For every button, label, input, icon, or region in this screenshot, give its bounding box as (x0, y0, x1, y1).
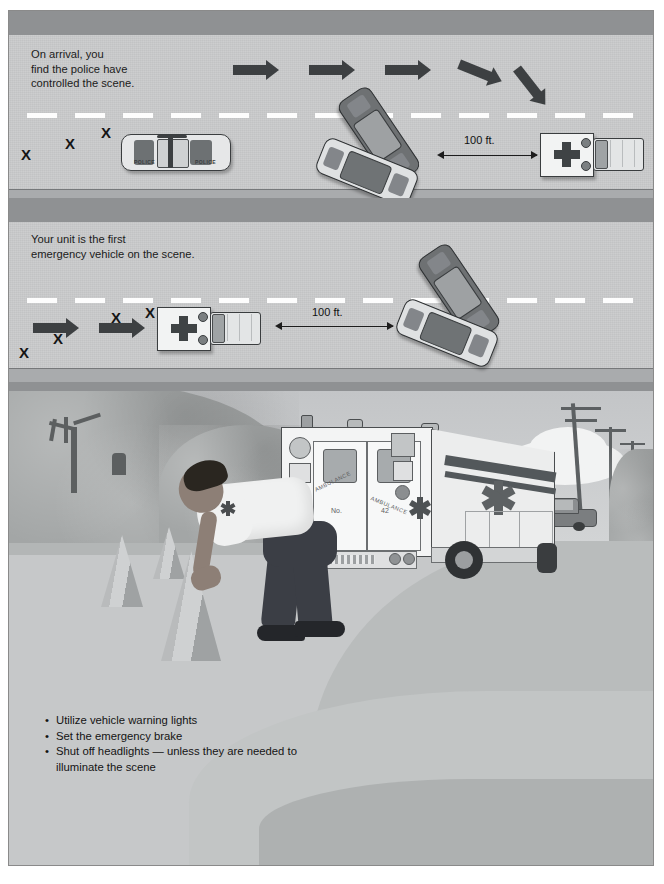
utility-pole-crossarm (561, 407, 601, 410)
bare-tree-branch (64, 417, 68, 443)
x-mark: X (65, 135, 75, 152)
list-item: Set the emergency brake (56, 729, 345, 745)
panel-1-caption: On arrival, you find the police have con… (31, 47, 261, 91)
panel-2: Your unit is the first emergency vehicle… (9, 222, 653, 382)
bare-tree-trunk (71, 427, 77, 493)
x-mark: X (145, 304, 155, 321)
police-car: POLICE POLICE (121, 134, 231, 171)
illustration-frame: On arrival, you find the police have con… (8, 10, 654, 866)
ambulance (157, 307, 267, 349)
star-of-life-patch-icon (220, 501, 235, 516)
paramedic (169, 449, 369, 661)
paramedic-shoe (295, 621, 345, 637)
dimension-arrow-right (531, 151, 538, 159)
flow-arrow (99, 318, 145, 338)
ambulance-wheel (537, 543, 557, 573)
flow-arrow (455, 55, 508, 93)
star-of-life-icon (481, 481, 515, 515)
traffic-cone (101, 535, 143, 607)
flow-arrow (233, 60, 279, 80)
dimension-label: 100 ft. (464, 134, 495, 146)
flow-arrow (309, 60, 355, 80)
dimension-arrow-right (387, 322, 394, 330)
ambulance (540, 133, 650, 175)
x-mark: X (19, 344, 29, 361)
panel-1-top-band (9, 11, 653, 35)
flow-arrow (508, 62, 555, 113)
instruction-list: Utilize vehicle warning lights Set the e… (45, 713, 345, 775)
list-item: Utilize vehicle warning lights (56, 713, 345, 729)
panel-2-caption: Your unit is the first emergency vehicle… (31, 232, 301, 261)
dimension-line (443, 155, 537, 156)
utility-pole-crossarm (565, 419, 597, 422)
dimension-line (281, 326, 393, 327)
panel-3-scene: AMBULANCE AMBULANCE No. 42 (9, 391, 653, 866)
utility-pole-crossarm (595, 429, 626, 432)
star-of-life-icon (409, 497, 431, 519)
bare-tree-branch (112, 453, 126, 475)
x-mark: X (21, 146, 31, 163)
flow-arrow (385, 60, 431, 80)
utility-pole-crossarm (620, 443, 645, 445)
panel-separator-band (9, 198, 653, 222)
x-mark: X (101, 124, 111, 141)
ambulance-unit-number: 42 (381, 507, 389, 514)
panel-separator-band-2 (9, 382, 653, 391)
flow-arrow (33, 318, 79, 338)
dimension-label: 100 ft. (312, 306, 343, 318)
panel-1: On arrival, you find the police have con… (9, 35, 653, 198)
list-item: Shut off headlights — unless they are ne… (56, 744, 345, 775)
